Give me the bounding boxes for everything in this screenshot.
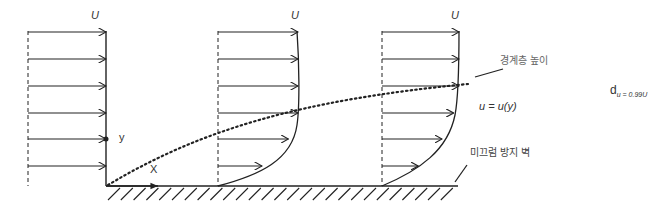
hatch-mark [415,188,427,200]
hatch-mark [351,188,363,200]
delta-subscript: u = 0.99U [617,91,648,98]
hatch-mark [377,188,389,200]
profile-uniform [28,31,106,186]
velocity-profile-curve [218,31,299,186]
hatch-mark [172,188,184,200]
y-axis-label: y [119,131,125,143]
hatch-mark [159,188,171,200]
leader-line-wall [455,165,467,182]
hatch-mark [364,188,376,200]
no-slip-wall-label: 미끄럼 방지 벽 [470,144,530,159]
profile-developing-2 [382,31,459,186]
free-stream-label-1: U [91,9,99,21]
hatch-mark [262,188,274,200]
boundary-layer-diagram [0,0,670,211]
velocity-profile-label: u = u(y) [479,100,517,112]
x-axis-label: X [150,163,157,175]
hatch-mark [326,188,338,200]
hatch-mark [300,188,312,200]
hatch-mark [236,188,248,200]
hatch-mark [121,188,133,200]
hatch-mark [428,188,440,200]
hatch-mark [108,188,120,200]
hatch-mark [313,188,325,200]
hatch-mark [441,188,453,200]
hatch-mark [134,188,146,200]
hatch-mark [249,188,261,200]
hatch-mark [402,188,414,200]
wall-hatching [108,188,453,200]
hatch-mark [287,188,299,200]
delta-symbol: d [610,83,617,97]
velocity-profile-curve [382,31,459,186]
free-stream-label-3: U [451,9,459,21]
hatch-mark [210,188,222,200]
profile-developing-1 [218,31,299,186]
boundary-layer-height-label: 경계층 높이 [500,52,548,67]
hatch-mark [338,188,350,200]
hatch-mark [146,188,158,200]
hatch-mark [390,188,402,200]
hatch-mark [223,188,235,200]
delta-label: du = 0.99U [610,83,647,98]
free-stream-label-2: U [291,9,299,21]
y-axis-marker [104,137,109,142]
hatch-mark [185,188,197,200]
leader-line-boundary-layer [475,69,503,77]
hatch-mark [274,188,286,200]
hatch-mark [198,188,210,200]
